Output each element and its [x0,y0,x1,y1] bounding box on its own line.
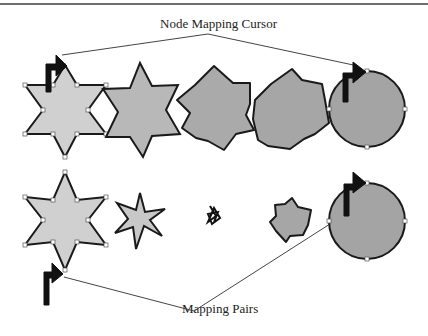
row1-blob [253,69,329,149]
row1-rounded-star [177,66,254,150]
row1-star-selected[interactable] [23,65,108,159]
row1-star-2 [103,63,180,157]
row2-circle-selected[interactable] [327,181,407,261]
diagram-canvas [0,0,428,336]
row2-thin-star [115,193,165,249]
row2-scribble [208,206,220,224]
row2-star-selected[interactable] [23,170,108,272]
row2-small-blob [270,198,311,242]
row1-circle-selected[interactable] [327,69,407,149]
cursor-arrow-icon[interactable] [44,263,63,305]
top-connector-lines [62,34,358,66]
